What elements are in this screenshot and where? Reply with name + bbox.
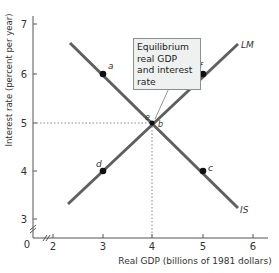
label-d: d xyxy=(96,159,102,169)
callout-line-3: and interest xyxy=(137,64,197,76)
y-tick-6: 6 xyxy=(21,69,27,80)
islm-chart: 7 6 5 4 3 0 2 3 4 5 6 Real GDP (billions… xyxy=(0,0,279,273)
callout-line-4: rate xyxy=(137,76,197,88)
x-axis-title: Real GDP (billions of 1981 dollars) xyxy=(118,256,271,266)
label-e: e xyxy=(145,113,150,122)
is-label: IS xyxy=(240,205,249,215)
y-axis-title: Interest rate (percent per year) xyxy=(4,13,14,146)
origin-label: 0 xyxy=(24,239,30,250)
x-tick-4: 4 xyxy=(149,241,155,252)
point-c xyxy=(200,168,207,175)
x-tick-5: 5 xyxy=(200,241,206,252)
x-tick-2: 2 xyxy=(50,241,56,252)
label-b: b xyxy=(158,120,163,129)
y-tick-5: 5 xyxy=(21,118,27,129)
callout-line-1: Equilibrium xyxy=(137,41,197,53)
lm-label: LM xyxy=(241,40,254,50)
point-a xyxy=(100,71,107,78)
callout-line-2: real GDP xyxy=(137,53,197,65)
label-a: a xyxy=(108,61,114,71)
equilibrium-callout: Equilibrium real GDP and interest rate xyxy=(133,38,201,90)
point-equilibrium xyxy=(150,121,155,126)
x-tick-3: 3 xyxy=(100,241,106,252)
label-c: c xyxy=(208,163,213,173)
y-tick-4: 4 xyxy=(21,166,27,177)
y-tick-7: 7 xyxy=(21,19,27,30)
x-tick-6: 6 xyxy=(250,241,256,252)
y-tick-3: 3 xyxy=(21,214,27,225)
